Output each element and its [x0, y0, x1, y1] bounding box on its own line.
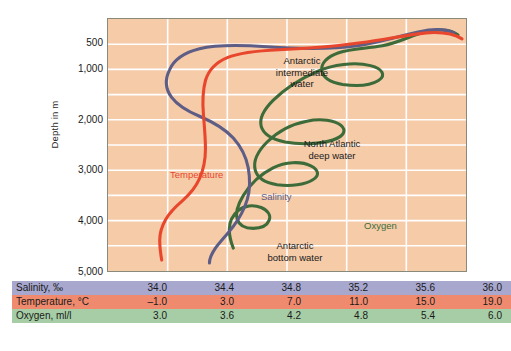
salinity-tick-4: 35.6 [377, 281, 444, 295]
salinity-tick-3: 35.2 [310, 281, 377, 295]
row-label-temperature: Temperature, °C [12, 295, 109, 309]
oxygen-tick-0: 3.0 [109, 309, 176, 323]
temperature-curve [160, 33, 462, 260]
curve-label-salinity: Salinity [261, 191, 292, 202]
temperature-tick-3: 11.0 [310, 295, 377, 309]
y-tick-2000: 2,000 [51, 115, 103, 125]
curve-label-temperature: Temperature [170, 169, 223, 180]
temperature-tick-5: 19.0 [444, 295, 511, 309]
oxygen-curve [229, 30, 458, 248]
salinity-tick-5: 36.0 [444, 281, 511, 295]
salinity-tick-0: 34.0 [109, 281, 176, 295]
temperature-tick-2: 7.0 [243, 295, 310, 309]
scale-legend-table: Salinity, ‰ 34.0 34.4 34.8 35.2 35.6 36.… [12, 281, 511, 323]
plot-area: Antarctic intermediate water North Atlan… [107, 18, 467, 272]
y-tick-3000: 3,000 [51, 165, 103, 175]
temperature-tick-1: 3.0 [176, 295, 243, 309]
oxygen-tick-5: 6.0 [444, 309, 511, 323]
y-tick-5000: 5,000 [51, 267, 103, 277]
salinity-tick-2: 34.8 [243, 281, 310, 295]
oxygen-tick-4: 5.4 [377, 309, 444, 323]
temperature-tick-0: –1.0 [109, 295, 176, 309]
salinity-curve [166, 30, 454, 263]
table-row-temperature: Temperature, °C –1.0 3.0 7.0 11.0 15.0 1… [12, 295, 511, 309]
oxygen-tick-3: 4.8 [310, 309, 377, 323]
y-tick-500: 500 [51, 38, 103, 48]
salinity-tick-1: 34.4 [176, 281, 243, 295]
table-row-salinity: Salinity, ‰ 34.0 34.4 34.8 35.2 35.6 36.… [12, 281, 511, 295]
table-row-oxygen: Oxygen, ml/l 3.0 3.6 4.2 4.8 5.4 6.0 [12, 309, 511, 323]
y-axis-tick-labels: 500 1,000 2,000 3,000 4,000 5,000 [47, 18, 103, 272]
row-label-salinity: Salinity, ‰ [12, 281, 109, 295]
profile-curves-svg [108, 19, 466, 271]
oxygen-tick-2: 4.2 [243, 309, 310, 323]
y-tick-4000: 4,000 [51, 216, 103, 226]
y-tick-1000: 1,000 [51, 64, 103, 74]
curve-label-oxygen: Oxygen [364, 220, 397, 231]
oxygen-tick-1: 3.6 [176, 309, 243, 323]
row-label-oxygen: Oxygen, ml/l [12, 309, 109, 323]
temperature-tick-4: 15.0 [377, 295, 444, 309]
